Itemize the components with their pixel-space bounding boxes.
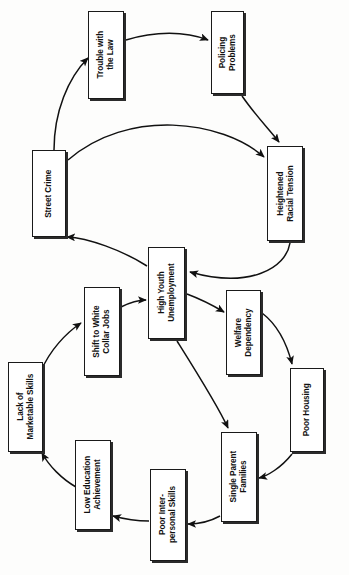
- node-street-crime[interactable]: Street Crime: [32, 150, 66, 237]
- edge-high-youth-unemployment-to-street-crime: [67, 237, 147, 266]
- node-single-parent-families[interactable]: Single Parent Families: [221, 432, 257, 522]
- edge-shift-to-white-collar-jobs-to-high-youth-unemployment: [121, 300, 146, 307]
- edge-low-education-achievement-to-lack-of-marketable-skills: [42, 453, 76, 487]
- diagram-canvas: Trouble with the Law Policing Problems S…: [0, 0, 349, 575]
- node-shift-to-white-collar-jobs[interactable]: Shift to White Collar Jobs: [84, 287, 120, 376]
- node-heightened-racial-tension[interactable]: Heightened Racial Tension: [267, 146, 303, 241]
- edge-policing-problems-to-heightened-racial-tension: [242, 96, 279, 142]
- node-policing-problems[interactable]: Policing Problems: [211, 11, 244, 94]
- node-label: High Youth Unemployment: [157, 264, 176, 323]
- edge-single-parent-families-to-poor-inter-personal-skills: [188, 516, 220, 524]
- node-label: Poor Inter- personal Skills: [158, 486, 177, 543]
- edge-lack-of-marketable-skills-to-shift-to-white-collar-jobs: [41, 323, 81, 371]
- edge-trouble-with-the-law-to-policing-problems: [126, 33, 208, 40]
- node-label: Heightened Racial Tension: [275, 165, 294, 221]
- node-welfare-dependency[interactable]: Welfare Dependency: [226, 290, 261, 375]
- edge-high-youth-unemployment-to-welfare-dependency: [187, 294, 224, 312]
- edge-heightened-racial-tension-to-high-youth-unemployment: [190, 243, 290, 278]
- node-lack-of-marketable-skills[interactable]: Lack of Marketable Skills: [8, 362, 43, 452]
- edge-poor-inter-personal-skills-to-low-education-achievement: [113, 516, 149, 521]
- node-label: Poor Housing: [302, 383, 312, 436]
- node-trouble-with-the-law[interactable]: Trouble with the Law: [88, 11, 124, 99]
- edge-welfare-dependency-to-poor-housing: [262, 313, 292, 364]
- node-label: Trouble with the Law: [96, 31, 115, 79]
- node-label: Lack of Marketable Skills: [16, 374, 35, 440]
- node-poor-housing[interactable]: Poor Housing: [290, 368, 324, 452]
- node-label: Policing Problems: [218, 34, 237, 71]
- node-label: Welfare Dependency: [234, 308, 253, 356]
- node-label: Shift to White Collar Jobs: [92, 305, 111, 357]
- node-poor-inter-personal-skills[interactable]: Poor Inter- personal Skills: [150, 469, 186, 561]
- edge-high-youth-unemployment-to-single-parent-families: [177, 341, 228, 428]
- edge-street-crime-to-heightened-racial-tension: [68, 125, 264, 160]
- node-label: Street Crime: [44, 169, 54, 217]
- node-label: Single Parent Families: [229, 451, 248, 503]
- edge-street-crime-to-trouble-with-the-law: [54, 58, 88, 150]
- node-high-youth-unemployment[interactable]: High Youth Unemployment: [148, 247, 185, 339]
- node-low-education-achievement[interactable]: Low Education Achievement: [75, 440, 111, 530]
- node-label: Low Education Achievement: [83, 456, 102, 514]
- edge-poor-housing-to-single-parent-families: [259, 454, 292, 478]
